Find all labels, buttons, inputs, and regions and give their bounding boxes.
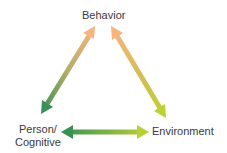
node-person-cognitive: Person/ Cognitive bbox=[15, 123, 61, 149]
node-environment: Environment bbox=[152, 125, 214, 138]
node-person-line2: Cognitive bbox=[15, 136, 61, 149]
arrow-behavior-person bbox=[41, 26, 95, 114]
arrow-person-environment bbox=[61, 125, 149, 139]
node-behavior: Behavior bbox=[82, 9, 125, 22]
node-person-line1: Person/ bbox=[15, 123, 61, 136]
arrow-behavior-environment bbox=[111, 26, 166, 118]
